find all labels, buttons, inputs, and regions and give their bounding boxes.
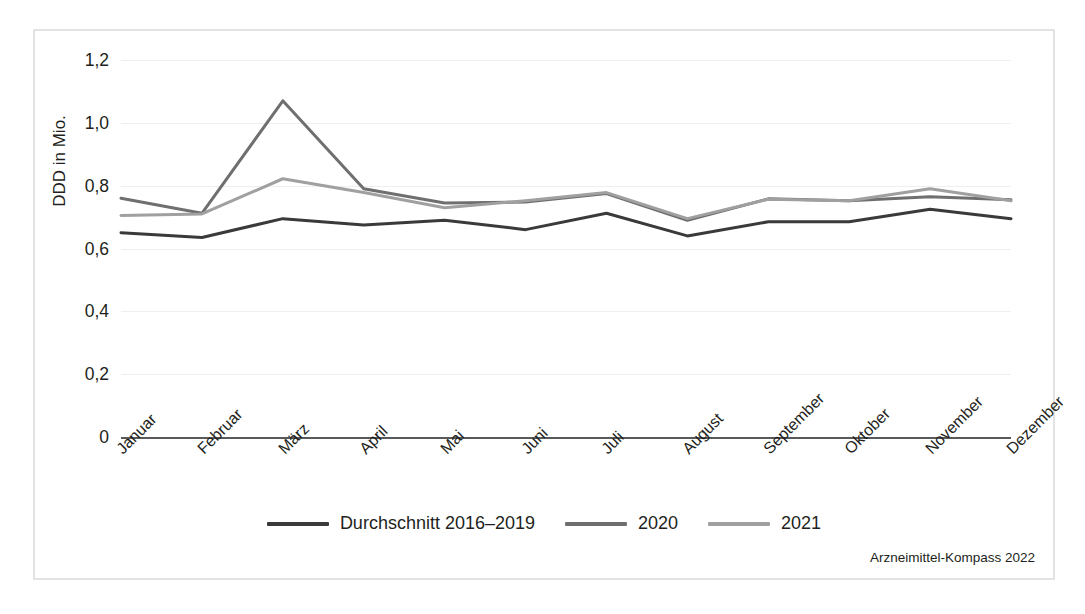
plot-area: 00,20,40,60,81,01,2 — [121, 60, 1011, 437]
y-axis-tick-label: 0,6 — [85, 238, 109, 259]
source-note: Arzneimittel-Kompass 2022 — [870, 550, 1035, 565]
chart-figure: DDD in Mio. 00,20,40,60,81,01,2 JanuarFe… — [33, 29, 1055, 580]
legend-item-label: Durchschnitt 2016–2019 — [340, 513, 535, 534]
chart-legend: Durchschnitt 2016–201920202021 — [35, 513, 1053, 534]
series-line — [121, 209, 1011, 237]
y-axis-tick-label: 0,4 — [85, 301, 109, 322]
y-axis-tick-label: 0 — [99, 427, 109, 448]
y-axis-tick-label: 1,2 — [85, 50, 109, 71]
series-lines-group — [121, 60, 1011, 437]
legend-item-label: 2021 — [781, 513, 821, 534]
legend-line-swatch — [708, 522, 770, 526]
legend-item[interactable]: Durchschnitt 2016–2019 — [267, 513, 535, 534]
legend-line-swatch — [267, 522, 329, 526]
y-axis-tick-label: 0,2 — [85, 364, 109, 385]
y-axis-tick-label: 0,8 — [85, 175, 109, 196]
legend-line-swatch — [565, 522, 627, 526]
legend-item-label: 2020 — [638, 513, 678, 534]
x-axis-tick-label: Dezember — [1003, 393, 1068, 458]
y-axis-title: DDD in Mio. — [50, 61, 70, 261]
series-line — [121, 101, 1011, 220]
legend-item[interactable]: 2021 — [708, 513, 821, 534]
legend-item[interactable]: 2020 — [565, 513, 678, 534]
y-axis-tick-label: 1,0 — [85, 112, 109, 133]
